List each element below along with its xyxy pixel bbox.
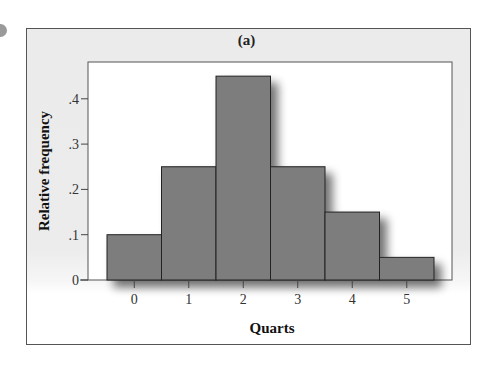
y-tick-label: 0 (72, 273, 79, 288)
x-tick-label: 1 (185, 292, 192, 307)
y-tick-label: .1 (69, 228, 80, 243)
x-tick-label: 3 (294, 292, 301, 307)
x-tick-label: 5 (403, 292, 410, 307)
y-tick-label: .2 (69, 182, 80, 197)
x-axis-label: Quarts (250, 320, 295, 336)
histogram-bar (162, 167, 217, 280)
x-axis: 012345 (131, 280, 411, 307)
histogram-bar (380, 257, 435, 280)
histogram-bar (325, 212, 380, 280)
histogram-chart: 0.1.2.3.4 012345 Quarts Relative frequen… (0, 0, 493, 366)
y-tick-label: .3 (69, 137, 80, 152)
x-tick-label: 2 (240, 292, 247, 307)
y-axis-label: Relative frequency (36, 110, 52, 231)
x-tick-label: 0 (131, 292, 138, 307)
x-tick-label: 4 (349, 292, 356, 307)
y-axis: 0.1.2.3.4 (69, 92, 89, 288)
histogram-bar (107, 235, 162, 280)
y-tick-label: .4 (69, 92, 80, 107)
histogram-bar (271, 167, 326, 280)
histogram-bar (216, 76, 271, 280)
